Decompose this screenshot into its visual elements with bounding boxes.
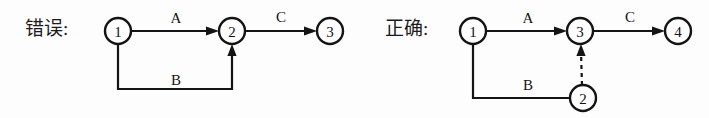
node-correct-2: 2 bbox=[570, 85, 596, 111]
panel-correct: 正确:ACB1342 bbox=[385, 9, 691, 111]
figure-root: 错误:ACB123正确:ACB1342 bbox=[0, 0, 709, 118]
edge-label-f-a: A bbox=[523, 10, 534, 26]
panel-caption-correct: 正确: bbox=[385, 18, 428, 39]
node-label-incorrect-1: 1 bbox=[114, 24, 122, 40]
node-label-incorrect-2: 2 bbox=[228, 24, 236, 40]
arrowhead-e-a bbox=[206, 26, 219, 35]
edge-f-dummy bbox=[576, 44, 585, 85]
node-label-incorrect-3: 3 bbox=[326, 24, 334, 40]
edge-path-f-b bbox=[473, 44, 570, 98]
arrowhead-f-c bbox=[652, 26, 665, 35]
arrowhead-f-a bbox=[554, 26, 567, 35]
aoe-network-diagram: 错误:ACB123正确:ACB1342 bbox=[0, 0, 709, 118]
node-incorrect-1: 1 bbox=[105, 18, 131, 44]
node-incorrect-3: 3 bbox=[317, 18, 343, 44]
node-label-correct-3: 3 bbox=[576, 24, 584, 40]
edge-label-e-c: C bbox=[276, 9, 286, 25]
node-correct-3: 3 bbox=[567, 18, 593, 44]
edge-f-c: C bbox=[593, 9, 665, 36]
edge-label-f-c: C bbox=[625, 9, 635, 25]
edge-e-a: A bbox=[131, 10, 219, 36]
node-incorrect-2: 2 bbox=[219, 18, 245, 44]
node-label-correct-2: 2 bbox=[579, 91, 587, 107]
edge-f-a: A bbox=[486, 10, 567, 36]
panel-caption-incorrect: 错误: bbox=[25, 18, 68, 39]
arrowhead-e-c bbox=[304, 26, 317, 35]
node-label-correct-4: 4 bbox=[674, 24, 682, 40]
arrowhead-e-b bbox=[227, 44, 236, 56]
edge-e-c: C bbox=[245, 9, 317, 36]
edge-e-b: B bbox=[118, 44, 237, 89]
panel-incorrect: 错误:ACB123 bbox=[25, 9, 343, 89]
edge-label-f-b: B bbox=[523, 77, 533, 93]
node-correct-4: 4 bbox=[665, 18, 691, 44]
edge-path-f-dummy bbox=[581, 52, 582, 85]
edge-f-b: B bbox=[473, 44, 570, 98]
arrowhead-f-dummy bbox=[576, 44, 585, 56]
node-label-correct-1: 1 bbox=[469, 24, 477, 40]
node-correct-1: 1 bbox=[460, 18, 486, 44]
edge-label-e-b: B bbox=[171, 72, 181, 88]
edge-label-e-a: A bbox=[171, 10, 182, 26]
